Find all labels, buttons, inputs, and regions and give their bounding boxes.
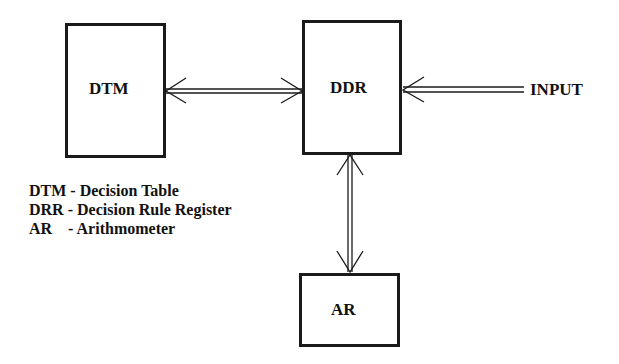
ddr-label: DDR bbox=[330, 78, 367, 98]
dtm-label: DTM bbox=[89, 79, 129, 99]
legend-meaning: Decision Rule Register bbox=[77, 201, 232, 218]
dtm-ddr-arrow bbox=[166, 78, 302, 103]
legend-abbr: AR bbox=[29, 220, 56, 237]
legend-separator: - bbox=[66, 182, 79, 199]
legend-abbr: DRR bbox=[29, 201, 64, 218]
legend-separator: - bbox=[64, 201, 77, 218]
input-ddr-arrow bbox=[403, 77, 524, 102]
legend-row-dtm: DTM - Decision Table bbox=[29, 181, 232, 200]
legend-separator: - bbox=[56, 220, 76, 237]
legend-row-drr: DRR - Decision Rule Register bbox=[29, 200, 232, 219]
ar-label: AR bbox=[331, 300, 356, 320]
input-label: INPUT bbox=[530, 80, 583, 100]
legend: DTM - Decision Table DRR - Decision Rule… bbox=[29, 181, 232, 238]
legend-meaning: Decision Table bbox=[80, 182, 179, 199]
legend-meaning: Arithmometer bbox=[77, 220, 176, 237]
ddr-ar-arrow bbox=[337, 155, 363, 272]
legend-abbr: DTM bbox=[29, 182, 66, 199]
legend-row-ar: AR - Arithmometer bbox=[29, 219, 232, 238]
